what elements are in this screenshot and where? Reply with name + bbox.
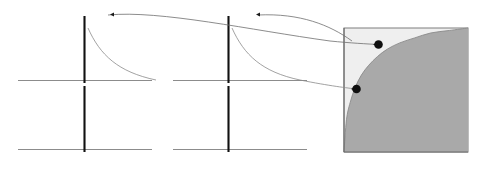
left-bottom-histogram-group: [18, 86, 152, 152]
roc-explanation-figure: [0, 0, 484, 178]
arrow-head-middle-threshold: [256, 13, 260, 17]
middle-bottom-histogram-group: [173, 86, 307, 152]
roc-panel: [344, 28, 468, 152]
arrow-head-left-threshold: [110, 13, 114, 17]
figure-canvas: [0, 0, 484, 178]
middle-top-histogram-group: [173, 16, 307, 83]
connector-distribution-tail-lower: [232, 28, 356, 89]
connector-lines: [88, 13, 383, 94]
connector-distribution-tail-left: [88, 28, 156, 80]
connector-top-threshold-to-roc: [108, 14, 378, 44]
